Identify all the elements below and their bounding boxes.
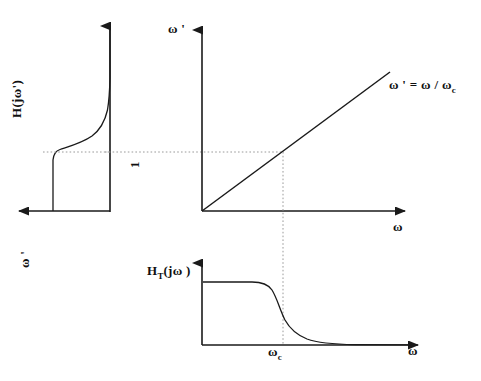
bottom-plot-group (202, 263, 418, 345)
diagram-canvas (0, 0, 481, 381)
bottom-plot-response-curve (203, 282, 416, 345)
middle-plot-mapping-equation-label: ω ' = ω / ωc (389, 78, 456, 95)
left-plot-y-axis-label: ω ' (18, 251, 31, 268)
bottom-plot-cutoff-label: ωc (268, 345, 282, 362)
transfer-function-symbol: H (147, 263, 157, 278)
mapping-equation-main: ω ' = ω / ω (389, 77, 452, 92)
bottom-plot-y-axis-label: HT(jω ) (147, 264, 191, 281)
middle-plot-mapping-line (202, 72, 390, 211)
transfer-function-argument: (jω ) (163, 263, 190, 278)
mapping-equation-subscript: c (452, 85, 456, 95)
left-plot-response-curve (53, 26, 110, 160)
cutoff-symbol: ω (268, 344, 278, 359)
middle-plot-group (202, 30, 405, 345)
left-plot-unity-tick-label: 1 (128, 161, 141, 168)
middle-plot-y-axis-label: ω ' (168, 22, 185, 35)
middle-plot-x-axis-label: ω (393, 220, 403, 233)
frequency-transformation-figure: ω ' H(jω') 1 ω ' ω ω ' = ω / ωc HT(jω ) … (0, 0, 481, 381)
left-plot-group (19, 26, 284, 212)
bottom-plot-x-axis-label: ω (408, 344, 418, 357)
cutoff-subscript: c (278, 352, 282, 362)
left-plot-x-axis-label: H(jω') (10, 80, 23, 118)
